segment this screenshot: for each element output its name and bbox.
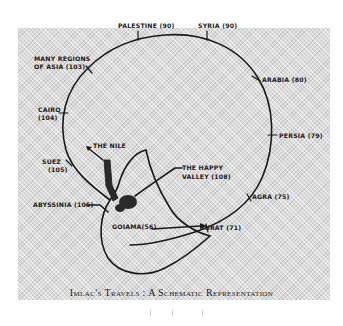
label-abyssinia: ABYSSINIA (105) — [33, 201, 94, 208]
label-cairo-1: CAIRO — [38, 106, 61, 113]
main-route-loop — [63, 35, 272, 245]
label-persia: PERSIA (79) — [279, 132, 323, 139]
label-many-regions-1: MANY REGIONS — [34, 55, 90, 62]
label-many-regions-2: OF ASIA (103) — [34, 63, 85, 70]
label-syria: SYRIA (90) — [198, 22, 237, 29]
label-surat: SURAT (71) — [200, 224, 241, 231]
label-happy-valley-1: THE HAPPY — [182, 164, 223, 171]
label-the-nile: THE NILE — [93, 142, 126, 149]
label-cairo-2: (104) — [38, 114, 58, 121]
label-happy-valley-2: VALLEY (108) — [182, 173, 231, 180]
nile-river — [104, 160, 118, 201]
label-suez-2: (105) — [48, 166, 68, 173]
label-arabia: ARABIA (80) — [262, 76, 307, 83]
travel-diagram: PALESTINE (90) SYRIA (90) MANY REGIONS O… — [0, 0, 343, 326]
figure-caption: Imlac's Travels : A Schematic Representa… — [0, 287, 343, 298]
label-suez-1: SUEZ — [42, 158, 61, 165]
happy-valley-leader — [135, 168, 182, 196]
nile-pointer — [88, 148, 103, 160]
label-goiama: GOIAMA(56) — [112, 223, 157, 230]
label-palestine: PALESTINE (90) — [118, 22, 175, 29]
scan-artifacts — [150, 310, 210, 320]
label-agra: AGRA (75) — [252, 193, 290, 200]
